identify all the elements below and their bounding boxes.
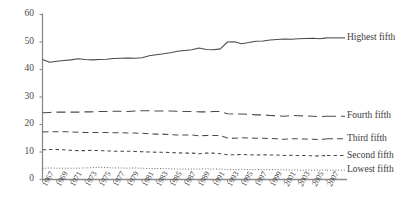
income-share-line-chart: 0102030405060 19671969197119731975197719… [0, 0, 408, 213]
y-tick-label: 50 [10, 37, 34, 47]
y-tick-label: 20 [10, 119, 34, 129]
y-tick-label: 40 [10, 64, 34, 74]
chart-series-lines [43, 38, 328, 170]
series-label-fourth-fifth: Fourth fifth [347, 111, 391, 121]
series-label-third-fifth: Third fifth [347, 134, 387, 144]
series-label-lowest-fifth: Lowest fifth [347, 165, 394, 175]
series-label-second-fifth: Second fifth [347, 151, 394, 161]
series-line-fourth-fifth [43, 111, 328, 117]
y-tick-label: 60 [10, 9, 34, 19]
y-tick-label: 0 [10, 174, 34, 184]
series-line-lowest-fifth [43, 167, 328, 170]
y-tick-label: 30 [10, 92, 34, 102]
series-line-second-fifth [43, 150, 328, 156]
series-line-highest-fifth [43, 38, 328, 62]
series-line-third-fifth [43, 132, 328, 140]
series-label-highest-fifth: Highest fifth [347, 33, 395, 43]
y-tick-label: 10 [10, 147, 34, 157]
legend-line-samples [327, 38, 345, 170]
